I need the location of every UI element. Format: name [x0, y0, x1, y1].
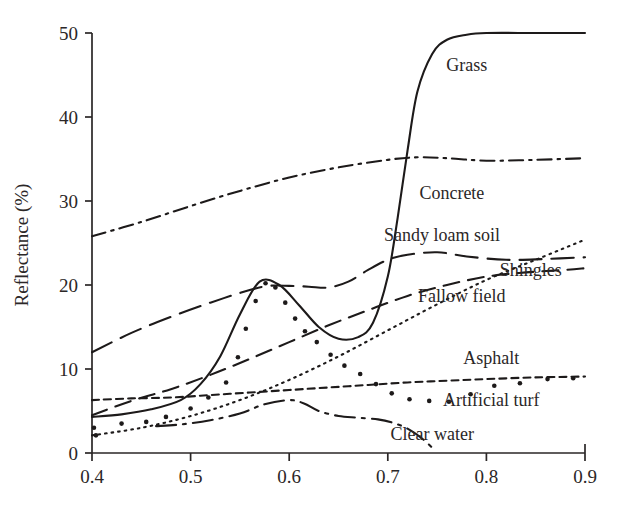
series-line [92, 157, 585, 236]
y-tick-label: 0 [69, 443, 79, 464]
data-point [315, 340, 320, 345]
data-point [545, 377, 550, 382]
x-tick-label: 0.5 [179, 466, 203, 487]
series-label-artificial-turf: Artificial turf [443, 390, 539, 410]
data-point [263, 281, 268, 286]
series-label-grass: Grass [446, 55, 487, 75]
data-point [236, 355, 241, 360]
data-point [164, 415, 169, 420]
series-label-asphalt: Asphalt [463, 348, 519, 368]
data-point [571, 376, 576, 381]
data-point [303, 329, 308, 334]
series-curves [92, 33, 585, 451]
x-tick-label: 0.7 [376, 466, 400, 487]
reflectance-spectral-chart: 01020304050 0.40.50.60.70.80.9 GrassConc… [0, 0, 624, 505]
data-point [283, 300, 288, 305]
data-point [244, 326, 249, 331]
data-point [518, 381, 523, 386]
series-label-sandy-loam-soil: Sandy loam soil [384, 225, 500, 245]
data-point [144, 420, 149, 425]
data-point [119, 421, 124, 426]
data-point [328, 352, 333, 357]
series-annotations: GrassConcreteSandy loam soilShinglesFall… [384, 55, 562, 444]
data-point [94, 433, 99, 438]
data-point [273, 285, 278, 290]
data-point [374, 382, 379, 387]
series-label-concrete: Concrete [419, 183, 484, 203]
series-label-shingles: Shingles [500, 260, 562, 280]
y-tick-label: 50 [59, 23, 78, 44]
data-point [188, 406, 193, 411]
data-point [342, 363, 347, 368]
data-point [92, 426, 97, 431]
data-point [427, 399, 432, 404]
data-point [224, 380, 229, 385]
y-tick-label: 20 [59, 275, 78, 296]
data-point [293, 316, 298, 321]
y-tick-label: 30 [59, 191, 78, 212]
y-tick-label: 40 [59, 107, 78, 128]
x-tick-label: 0.6 [277, 466, 301, 487]
data-point [253, 299, 258, 304]
x-tick-label: 0.8 [475, 466, 499, 487]
data-point [492, 384, 497, 389]
y-tick-label: 10 [59, 359, 78, 380]
y-axis-title: Reflectance (%) [11, 184, 33, 307]
series-label-fallow-field: Fallow field [418, 286, 506, 306]
x-tick-label: 0.9 [573, 466, 597, 487]
x-tick-labels: 0.40.50.60.70.80.9 [80, 466, 597, 487]
x-tick-label: 0.4 [80, 466, 104, 487]
data-point [206, 395, 211, 400]
data-point [358, 372, 363, 377]
chart-figure: 01020304050 0.40.50.60.70.80.9 GrassConc… [0, 0, 624, 505]
series-concrete [92, 157, 585, 236]
data-point [407, 397, 412, 402]
data-point [389, 391, 394, 396]
y-tick-labels: 01020304050 [59, 23, 78, 464]
series-label-clear-water: Clear water [390, 424, 473, 444]
